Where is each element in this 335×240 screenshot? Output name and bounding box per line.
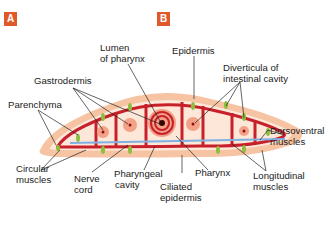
label-parenchyma: Parenchyma <box>8 100 62 111</box>
label-pharynx: Pharynx <box>195 168 230 179</box>
label-dorsoventral-muscles: Dorsoventral muscles <box>270 126 324 147</box>
label-longitudinal-muscles: Longitudinal muscles <box>253 171 305 192</box>
label-lumen-of-pharynx: Lumen of pharynx <box>100 43 145 64</box>
label-circular-muscles: Circular muscles <box>16 164 51 185</box>
label-gastrodermis: Gastrodermis <box>34 76 92 87</box>
label-nerve-cord: Nerve cord <box>74 174 100 195</box>
pharynx <box>148 109 176 137</box>
label-ciliated-epidermis: Ciliated epidermis <box>160 182 202 203</box>
label-pharyngeal-cavity: Pharyngeal cavity <box>114 169 163 190</box>
label-epidermis: Epidermis <box>172 46 215 57</box>
label-diverticula: Diverticula of intestinal cavity <box>223 63 288 84</box>
